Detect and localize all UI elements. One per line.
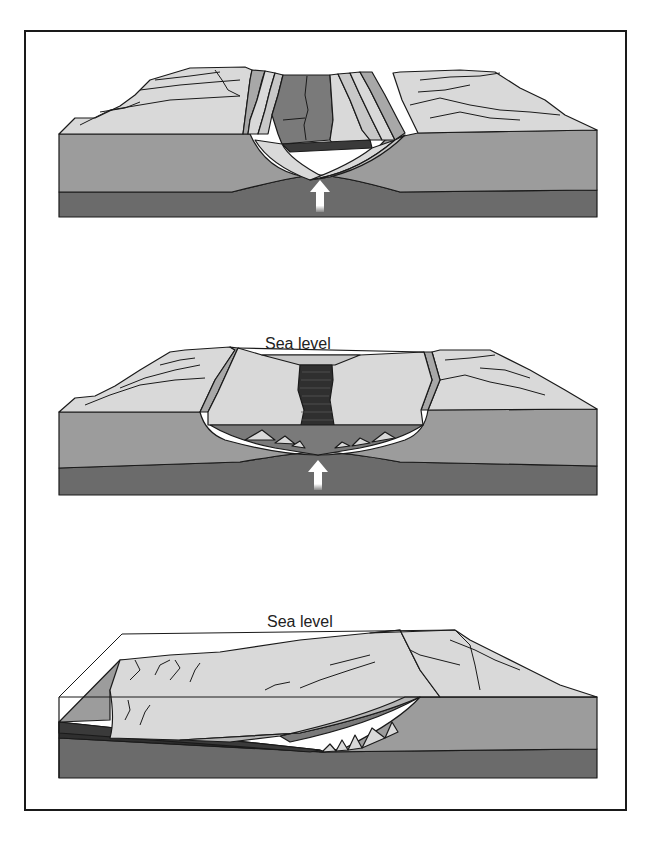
panel-2-ocean-basin xyxy=(59,347,597,495)
block-diagrams xyxy=(0,0,661,847)
sea-level-label-panel-3: Sea level xyxy=(267,613,333,631)
panel-3-passive-margin xyxy=(59,630,597,778)
panel-1-rifting xyxy=(59,67,597,217)
sea-level-label-panel-2: Sea level xyxy=(265,335,331,353)
